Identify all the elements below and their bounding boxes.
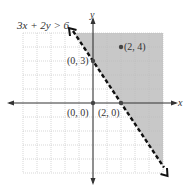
- point-label-0-3: (0, 3): [67, 56, 89, 66]
- x-axis-label: x: [178, 98, 182, 108]
- point-label-0-0: (0, 0): [67, 108, 89, 118]
- point-label-2-0: (2, 0): [98, 108, 120, 118]
- x-axis-arrow-left: [7, 101, 14, 106]
- point-2-0: [119, 101, 123, 105]
- point-0-0: [91, 101, 95, 105]
- point-2-4: [119, 45, 123, 49]
- x-axis-arrow-right: [171, 101, 178, 106]
- y-axis-label: y: [90, 10, 94, 20]
- point-0-3: [91, 59, 95, 63]
- inequality-label: 3x + 2y > 6: [17, 20, 69, 31]
- y-axis-arrow-bottom: [91, 178, 96, 185]
- boundary-arrow-bottom: [161, 168, 168, 176]
- point-label-2-4: (2, 4): [124, 42, 146, 52]
